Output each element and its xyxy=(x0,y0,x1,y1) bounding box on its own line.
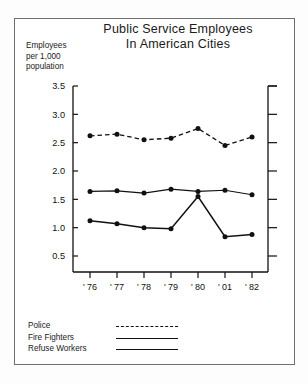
data-point xyxy=(115,188,120,193)
x-axis xyxy=(73,272,268,278)
legend-item-police: Police xyxy=(28,320,208,332)
data-point xyxy=(196,194,201,199)
legend-label-fire-fighters: Fire Fighters xyxy=(28,332,74,344)
data-point xyxy=(88,133,93,138)
data-point xyxy=(169,226,174,231)
data-point xyxy=(169,187,174,192)
y-axis xyxy=(73,86,78,272)
legend-item-refuse-workers: Refuse Workers xyxy=(28,343,208,355)
data-point xyxy=(250,192,255,197)
data-point xyxy=(115,221,120,226)
data-point xyxy=(88,189,93,194)
svg-text:0.5: 0.5 xyxy=(52,251,65,261)
svg-text:3.0: 3.0 xyxy=(52,110,65,120)
data-point xyxy=(196,126,201,131)
svg-text:' 76: ' 76 xyxy=(83,282,97,292)
data-point xyxy=(223,188,228,193)
right-axis xyxy=(268,86,277,272)
data-point xyxy=(250,232,255,237)
x-tick-labels: ' 76' 77' 78' 79' 80' 01' 82 xyxy=(83,282,259,292)
figure-canvas: Public Service Employees In American Cit… xyxy=(0,0,308,384)
svg-text:' 01: ' 01 xyxy=(218,282,232,292)
data-point xyxy=(223,143,228,148)
svg-text:2.5: 2.5 xyxy=(52,138,65,148)
chart-legend: Police Fire Fighters Refuse Workers xyxy=(28,320,208,355)
svg-text:1.0: 1.0 xyxy=(52,223,65,233)
data-point xyxy=(142,225,147,230)
data-point xyxy=(142,137,147,142)
data-series-group xyxy=(88,126,255,239)
y-tick-labels: 3.53.02.52.01.51.00.5 xyxy=(52,81,65,261)
data-point xyxy=(223,234,228,239)
legend-item-fire-fighters: Fire Fighters xyxy=(28,332,208,344)
svg-text:' 80: ' 80 xyxy=(191,282,205,292)
data-point xyxy=(196,189,201,194)
data-point xyxy=(250,135,255,140)
svg-text:1.5: 1.5 xyxy=(52,195,65,205)
legend-label-refuse-workers: Refuse Workers xyxy=(28,343,87,355)
legend-label-police: Police xyxy=(28,320,50,332)
svg-text:' 77: ' 77 xyxy=(110,282,124,292)
svg-text:3.5: 3.5 xyxy=(52,81,65,91)
svg-text:' 82: ' 82 xyxy=(245,282,259,292)
data-point xyxy=(88,218,93,223)
data-point xyxy=(142,191,147,196)
data-point xyxy=(169,136,174,141)
svg-text:' 78: ' 78 xyxy=(137,282,151,292)
data-point xyxy=(115,132,120,137)
svg-text:' 79: ' 79 xyxy=(164,282,178,292)
svg-text:2.0: 2.0 xyxy=(52,166,65,176)
